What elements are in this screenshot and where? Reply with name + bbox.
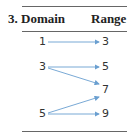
range-value: 5 — [102, 61, 109, 73]
arrows — [0, 0, 137, 134]
mapping-diagram: 3. Domain Range 1 3 5 3 5 7 9 — [0, 0, 137, 134]
range-value: 3 — [102, 36, 109, 48]
domain-value: 1 — [39, 36, 46, 48]
arrow-3-to-7 — [48, 68, 99, 84]
domain-value: 5 — [39, 108, 46, 120]
arrow-5-to-7 — [48, 97, 99, 113]
domain-value: 3 — [39, 61, 46, 73]
bottom-rule — [22, 131, 127, 132]
range-value: 7 — [102, 84, 109, 96]
range-value: 9 — [102, 108, 109, 120]
